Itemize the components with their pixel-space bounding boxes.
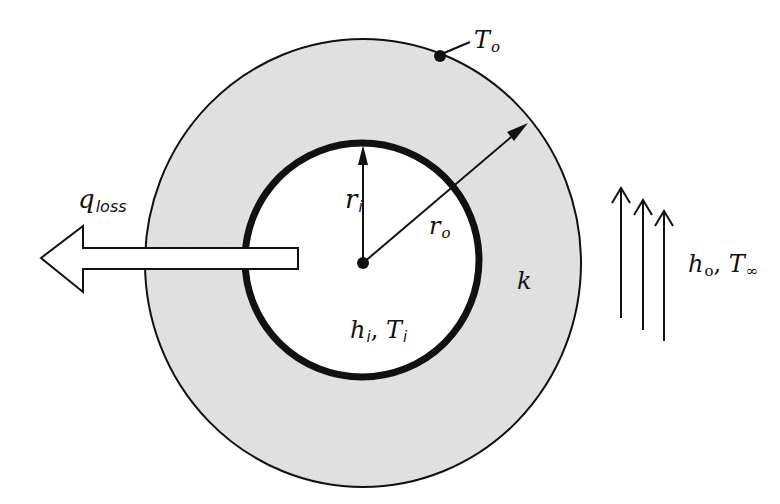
h-i-subscript: i	[366, 328, 370, 346]
r-o-label: ro	[429, 214, 451, 238]
T-inf-subscript: ∞	[746, 262, 759, 280]
k-symbol: k	[517, 267, 532, 295]
conductivity-label: k	[517, 269, 532, 293]
T-inf-symbol: T	[729, 250, 745, 278]
q-loss-label: qloss	[78, 186, 127, 212]
pipe-insulation-diagram: qloss ri ro hi, Ti k To ho, T∞	[0, 0, 780, 504]
h-i-symbol: h	[350, 316, 365, 344]
inner-fluid-label: hi, Ti	[350, 318, 407, 342]
diagram-canvas	[0, 0, 780, 504]
r-i-subscript: i	[358, 198, 362, 216]
q-symbol: q	[78, 184, 95, 214]
r-i-symbol: r	[345, 184, 357, 214]
T-o-symbol: T	[474, 26, 490, 54]
T-i-subscript: i	[403, 328, 407, 346]
separator: ,	[371, 316, 386, 344]
q-subscript: loss	[96, 197, 127, 216]
h-o-symbol: h	[688, 250, 703, 278]
separator: ,	[714, 250, 729, 278]
r-i-label: ri	[345, 186, 363, 212]
r-o-subscript: o	[441, 224, 450, 242]
T-i-symbol: T	[386, 316, 402, 344]
ambient-flow-arrows	[612, 188, 673, 341]
h-o-subscript: o	[704, 262, 713, 280]
r-o-symbol: r	[429, 212, 440, 240]
T-o-label: To	[474, 28, 500, 52]
center-point	[357, 257, 369, 269]
ambient-label: ho, T∞	[688, 252, 758, 276]
T-o-subscript: o	[491, 38, 500, 56]
